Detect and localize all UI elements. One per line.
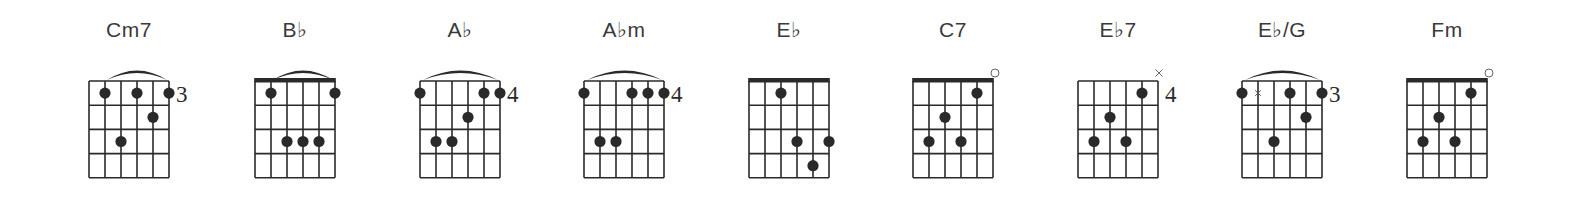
- fret-position-marker: 4: [1165, 82, 1177, 107]
- nut: [748, 78, 830, 83]
- finger-dot: [775, 88, 786, 99]
- finger-dot: [281, 136, 292, 147]
- finger-dot: [297, 136, 308, 147]
- fretboard: 3: [69, 0, 189, 210]
- finger-dot: [414, 88, 425, 99]
- finger-dot: [478, 88, 489, 99]
- finger-dot: [971, 88, 982, 99]
- finger-dot: [955, 136, 966, 147]
- finger-dot: [658, 88, 669, 99]
- finger-dot: [329, 88, 340, 99]
- chord-diagram: A♭m4: [564, 0, 684, 210]
- fretboard: 4: [1058, 0, 1178, 210]
- finger-dot: [642, 88, 653, 99]
- finger-dot: [1417, 136, 1428, 147]
- finger-dot: [1284, 88, 1295, 99]
- barre-arc: [423, 71, 498, 81]
- chord-diagram: E♭: [729, 0, 849, 210]
- finger-dot: [163, 88, 174, 99]
- chord-diagram: Fm: [1387, 0, 1507, 210]
- finger-dot: [147, 112, 158, 123]
- fret-position-marker: 4: [507, 82, 519, 107]
- finger-dot: [1316, 88, 1327, 99]
- nut: [1406, 78, 1488, 83]
- finger-dot: [446, 136, 457, 147]
- finger-dot: [923, 136, 934, 147]
- fretboard: [1387, 0, 1507, 210]
- chord-diagram: E♭/G3: [1222, 0, 1342, 210]
- finger-dot: [99, 88, 110, 99]
- finger-dot: [1088, 136, 1099, 147]
- finger-dot: [1465, 88, 1476, 99]
- finger-dot: [494, 88, 505, 99]
- finger-dot: [791, 136, 802, 147]
- finger-dot: [1433, 112, 1444, 123]
- chord-diagram: E♭74: [1058, 0, 1178, 210]
- nut: [912, 78, 994, 83]
- nut: [254, 78, 336, 83]
- finger-dot: [823, 136, 834, 147]
- finger-dot: [594, 136, 605, 147]
- barre-arc: [107, 71, 167, 81]
- chord-diagram: Cm73: [69, 0, 189, 210]
- finger-dot: [313, 136, 324, 147]
- barre-arc: [587, 71, 662, 81]
- finger-dot: [939, 112, 950, 123]
- finger-dot: [1104, 112, 1115, 123]
- chord-diagram: B♭: [235, 0, 355, 210]
- muted-string-icon: [1156, 70, 1163, 77]
- finger-dot: [807, 160, 818, 171]
- finger-dot: [430, 136, 441, 147]
- finger-dot: [462, 112, 473, 123]
- fret-position-marker: 3: [1329, 82, 1341, 107]
- open-string-icon: [991, 69, 999, 77]
- finger-dot: [1268, 136, 1279, 147]
- fretboard: 4: [564, 0, 684, 210]
- fretboard: 4: [400, 0, 520, 210]
- barre-arc: [1245, 71, 1320, 81]
- fretboard: [729, 0, 849, 210]
- open-string-icon: [1485, 69, 1493, 77]
- fretboard: [893, 0, 1013, 210]
- chord-diagram: C7: [893, 0, 1013, 210]
- finger-dot: [115, 136, 126, 147]
- fret-position-marker: 4: [671, 82, 683, 107]
- finger-dot: [626, 88, 637, 99]
- finger-dot: [1120, 136, 1131, 147]
- fretboard: [235, 0, 355, 210]
- finger-dot: [578, 88, 589, 99]
- finger-dot: [1449, 136, 1460, 147]
- finger-dot: [610, 136, 621, 147]
- fret-position-marker: 3: [176, 82, 188, 107]
- finger-dot: [1236, 88, 1247, 99]
- finger-dot: [1300, 112, 1311, 123]
- finger-dot: [131, 88, 142, 99]
- chord-diagram: A♭4: [400, 0, 520, 210]
- fretboard: 3: [1222, 0, 1342, 210]
- finger-dot: [265, 88, 276, 99]
- finger-dot: [1136, 88, 1147, 99]
